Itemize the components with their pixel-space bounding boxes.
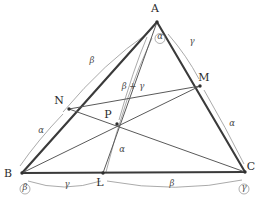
angle-sum-beta-gamma: β + γ <box>121 81 145 91</box>
cevian-CN <box>69 109 245 172</box>
geometry-figure: ABC NMLP αβγβαγαγβαβ + γ <box>0 0 268 205</box>
angle-ring-group <box>20 34 249 195</box>
arc-N-to-B <box>20 114 63 166</box>
arc-group <box>20 33 244 187</box>
arc-label-MC-alpha: α <box>229 118 235 128</box>
vertex-label-b: B <box>4 167 12 180</box>
point-marker-m <box>198 84 201 87</box>
angle-at-A: α <box>157 31 163 41</box>
arc-L-to-C <box>107 180 242 187</box>
arc-P-alpha <box>106 38 152 172</box>
arc-label-BL-gamma: γ <box>64 179 70 189</box>
cevian-AL <box>103 22 157 173</box>
arc-M-to-C <box>204 90 244 164</box>
point-label-n: N <box>54 94 64 107</box>
angle-at-B: β <box>22 182 28 192</box>
vertex-label-c: C <box>247 160 255 173</box>
point-marker-n <box>67 107 70 110</box>
angle-at-P-alpha: α <box>119 144 125 154</box>
point-label-p: P <box>104 108 112 121</box>
point-marker-p <box>115 122 118 125</box>
side-AC <box>157 22 245 172</box>
arc-label-BN-alpha: α <box>38 125 44 135</box>
arc-label-LC-beta: β <box>169 178 175 188</box>
angle-at-C: γ <box>241 182 247 192</box>
vertex-label-group: ABC <box>4 2 255 180</box>
angle-label-group: αβγβαγαγβαβ + γ <box>22 31 248 192</box>
figure-canvas: ABC NMLP αβγβαγαγβαβ + γ <box>0 0 268 205</box>
point-label-m: M <box>198 71 209 84</box>
vertex-label-a: A <box>150 2 160 15</box>
point-marker-a <box>155 20 158 23</box>
side-BC <box>22 172 245 173</box>
point-marker-b <box>20 171 23 174</box>
arc-label-AM-gamma: γ <box>189 36 195 46</box>
point-label-l: L <box>96 176 104 189</box>
arc-label-AN-beta: β <box>89 55 95 65</box>
point-marker-l <box>101 171 104 174</box>
